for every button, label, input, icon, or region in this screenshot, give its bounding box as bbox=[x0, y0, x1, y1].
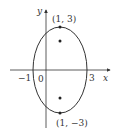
vertex-bottom-label: (1, −3) bbox=[56, 118, 88, 128]
ellipse-diagram: y x −1 0 3 (1, 3) (1, −3) bbox=[0, 0, 115, 139]
tick-label-neg1: −1 bbox=[18, 73, 31, 83]
vertex-bottom-point bbox=[59, 112, 62, 115]
focus-top-point bbox=[59, 40, 62, 43]
y-axis-label: y bbox=[36, 6, 43, 16]
vertex-top-point bbox=[59, 26, 62, 29]
tick-label-3: 3 bbox=[89, 73, 95, 83]
focus-bottom-point bbox=[59, 97, 62, 100]
origin-label: 0 bbox=[38, 74, 44, 84]
x-axis-label: x bbox=[103, 73, 108, 83]
vertex-top-label: (1, 3) bbox=[52, 14, 76, 24]
